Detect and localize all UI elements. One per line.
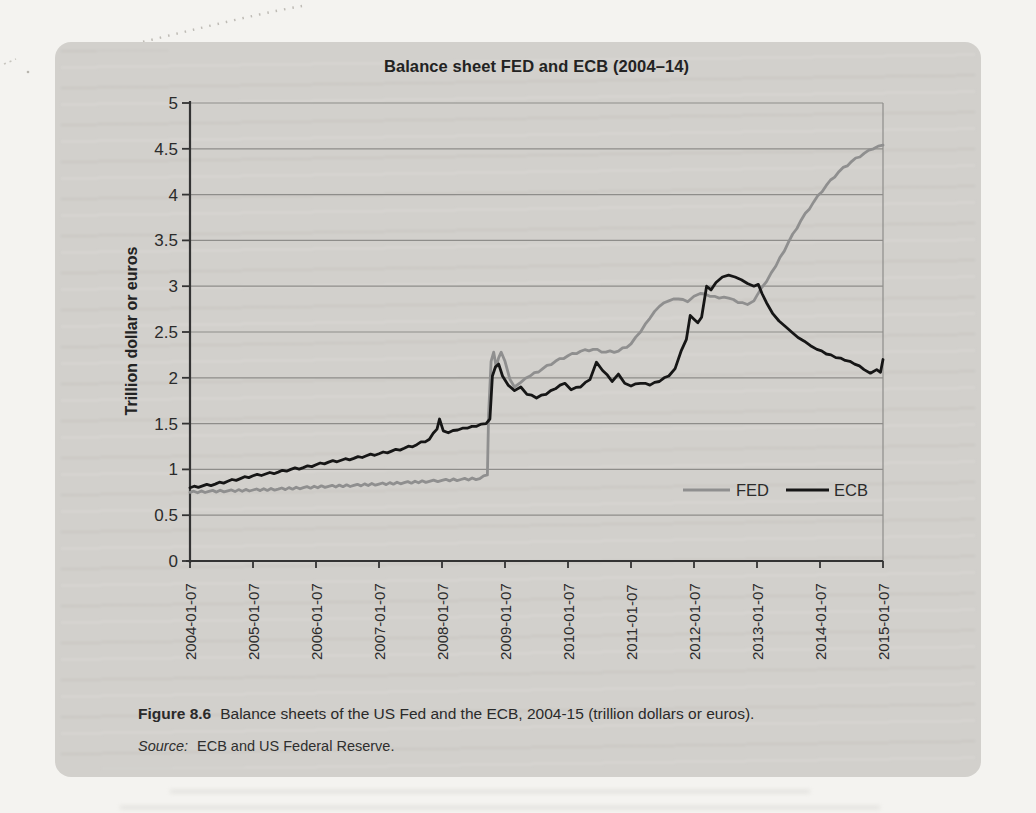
svg-text:2005-01-07: 2005-01-07 [245, 583, 262, 660]
svg-text:4.5: 4.5 [154, 140, 178, 159]
legend-label-ecb: ECB [834, 481, 868, 499]
svg-text:2010-01-07: 2010-01-07 [560, 583, 577, 660]
svg-text:2008-01-07: 2008-01-07 [434, 583, 451, 660]
svg-text:3.5: 3.5 [154, 231, 178, 250]
legend-label-fed: FED [736, 481, 769, 499]
svg-text:2013-01-07: 2013-01-07 [749, 583, 766, 660]
svg-text:1.5: 1.5 [154, 415, 178, 434]
page-bleed-through [120, 806, 880, 809]
chart-svg: 54.543.532.521.510.502004-01-072005-01-0… [55, 42, 981, 777]
svg-text:2009-01-07: 2009-01-07 [497, 583, 514, 660]
figure-box: Balance sheet FED and ECB (2004–14) Tril… [55, 42, 981, 777]
svg-text:2015-01-07: 2015-01-07 [875, 583, 892, 660]
svg-text:2007-01-07: 2007-01-07 [371, 583, 388, 660]
svg-text:2.5: 2.5 [154, 323, 178, 342]
svg-text:2014-01-07: 2014-01-07 [812, 583, 829, 660]
series-lines [190, 145, 883, 493]
svg-text:2012-01-07: 2012-01-07 [686, 583, 703, 660]
svg-text:4: 4 [169, 186, 178, 205]
svg-text:2011-01-07: 2011-01-07 [623, 584, 640, 660]
series-line-ecb [190, 275, 883, 488]
gridlines [190, 103, 883, 561]
page-bleed-through [170, 790, 810, 793]
x-axis-labels: 2004-01-072005-01-072006-01-072007-01-07… [182, 561, 892, 660]
caption-label: Figure 8.6 [138, 705, 211, 722]
svg-text:2006-01-07: 2006-01-07 [308, 583, 325, 660]
source-label: Source: [138, 738, 188, 754]
scanned-book-page: { "figure": { "chart": { "title": "Balan… [0, 0, 1036, 813]
svg-text:5: 5 [169, 94, 178, 113]
caption-text: Balance sheets of the US Fed and the ECB… [220, 705, 754, 722]
y-axis-tick-labels: 54.543.532.521.510.50 [154, 94, 190, 571]
svg-text:1: 1 [169, 460, 178, 479]
svg-text:3: 3 [169, 277, 178, 296]
legend: FEDECB [683, 481, 868, 499]
source-line: Source:ECB and US Federal Reserve. [138, 738, 838, 754]
svg-text:2004-01-07: 2004-01-07 [182, 583, 199, 660]
svg-text:0: 0 [169, 552, 178, 571]
svg-text:2: 2 [169, 369, 178, 388]
figure-caption: Figure 8.6Balance sheets of the US Fed a… [138, 705, 938, 723]
source-text: ECB and US Federal Reserve. [197, 738, 394, 754]
svg-text:0.5: 0.5 [154, 506, 178, 525]
